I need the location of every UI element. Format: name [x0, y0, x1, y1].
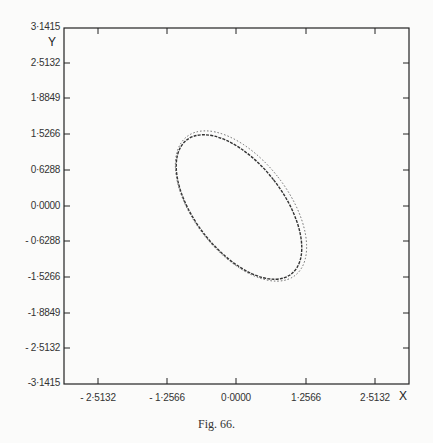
y-tick-label: 2·5132	[0, 57, 60, 68]
y-tick-label: - 0·6288	[0, 235, 60, 246]
plot-area	[0, 0, 433, 443]
orbit-curve	[150, 108, 332, 305]
x-tick-label: - 1·2566	[132, 392, 202, 403]
x-tick-label: - 2·5132	[63, 392, 133, 403]
y-tick-label: -1·8849	[0, 307, 60, 318]
y-axis-label: Y	[48, 35, 56, 49]
y-tick-label: -1·5266	[0, 271, 60, 282]
left-ticks	[64, 63, 70, 348]
x-tick-label: 0·0000	[201, 392, 271, 403]
y-tick-label: 1·8849	[0, 92, 60, 103]
y-tick-label: - 2·5132	[0, 342, 60, 353]
y-tick-label: 0·6288	[0, 164, 60, 175]
top-ticks	[98, 28, 375, 34]
figure-caption: Fig. 66.	[0, 417, 433, 432]
y-tick-label: 3·1415	[0, 21, 60, 32]
y-tick-label: -3·1415	[0, 377, 60, 388]
right-ticks	[403, 63, 409, 348]
y-tick-label: 1·5266	[0, 128, 60, 139]
y-tick-label: 0·0000	[0, 200, 60, 211]
bottom-ticks	[98, 378, 375, 384]
plot-frame	[64, 28, 409, 384]
x-tick-label: 1·2566	[271, 392, 341, 403]
x-axis-label: X	[399, 389, 407, 403]
